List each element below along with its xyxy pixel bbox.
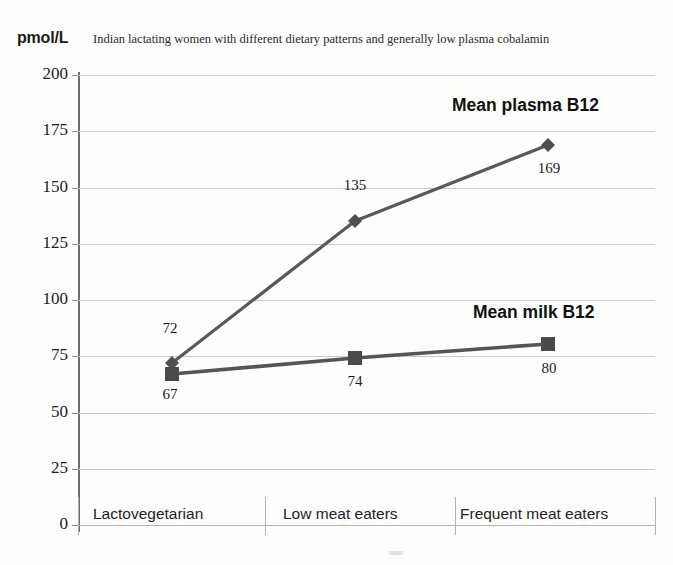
category-divider-0: [78, 497, 79, 535]
chart-figure: pmol/L Indian lactating women with diffe…: [0, 0, 673, 565]
x-category-label-frequent-meat-eaters: Frequent meat eaters: [460, 505, 608, 523]
y-tick-125: 125: [0, 244, 68, 245]
category-divider-3: [655, 497, 656, 535]
series-label-milk: Mean milk B12: [473, 302, 595, 323]
point-label-milk-1: 74: [333, 373, 377, 390]
series-label-plasma: Mean plasma B12: [452, 95, 599, 116]
category-divider-2: [455, 497, 456, 535]
chart-title: Indian lactating women with different di…: [93, 32, 549, 47]
y-tick-175: 175: [0, 131, 68, 132]
y-tick-100: 100: [0, 300, 68, 301]
x-category-label-lactovegetarian: Lactovegetarian: [93, 505, 203, 523]
y-axis-unit-label: pmol/L: [17, 29, 68, 47]
gridline-25: [78, 469, 655, 470]
point-label-plasma-0: 72: [150, 320, 190, 337]
point-label-milk-2: 80: [527, 360, 571, 377]
y-tick-75: 75: [0, 356, 68, 357]
y-tick-0: 0: [0, 525, 68, 526]
gridline-200: [78, 75, 655, 76]
point-label-milk-0: 67: [150, 386, 190, 403]
category-divider-1: [265, 497, 266, 535]
y-tick-50: 50: [0, 413, 68, 414]
x-category-label-low-meat-eaters: Low meat eaters: [283, 505, 398, 523]
y-tick-150: 150: [0, 188, 68, 189]
gridline-125: [78, 244, 655, 245]
y-tick-25: 25: [0, 469, 68, 470]
gridline-175: [78, 131, 655, 132]
gridline-50: [78, 413, 655, 414]
gridline-75: [78, 356, 655, 357]
scan-artifact: [389, 551, 403, 555]
gridline-100: [78, 300, 655, 301]
point-label-plasma-2: 169: [527, 160, 571, 177]
point-label-plasma-1: 135: [333, 177, 377, 194]
y-tick-200: 200: [0, 75, 68, 76]
x-axis-line: [78, 525, 656, 526]
plot-area: [78, 75, 655, 525]
